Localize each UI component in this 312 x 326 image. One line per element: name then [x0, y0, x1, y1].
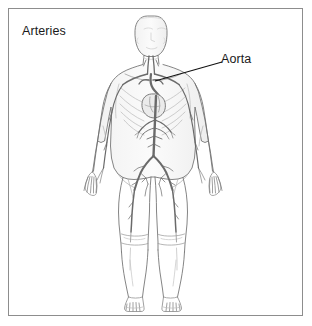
clipped-text-artifacts — [0, 0, 312, 7]
arterial-system-illustration — [8, 8, 303, 316]
arteries-figure: Arteries Aorta — [0, 0, 312, 326]
page-title: Arteries — [22, 24, 66, 38]
callout-label-aorta: Aorta — [221, 52, 251, 66]
